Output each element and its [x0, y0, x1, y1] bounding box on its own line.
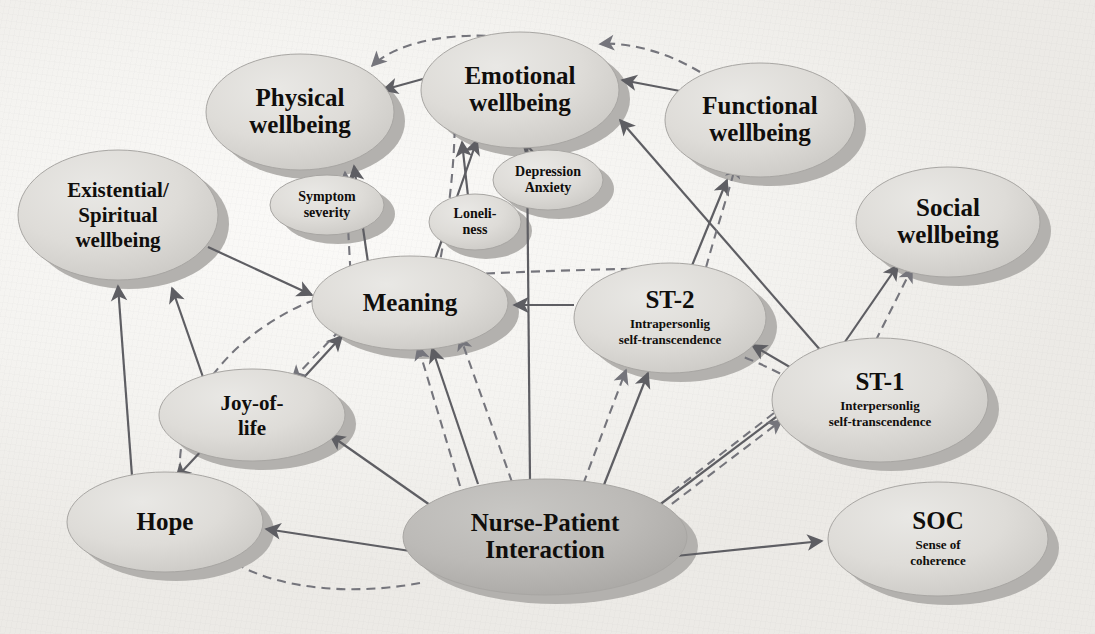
node-soc[interactable]: SOCSense ofcoherence	[828, 482, 1048, 596]
edge-nurse-meaning-dashed-2	[460, 336, 512, 482]
node-functional[interactable]: Functionalwellbeing	[665, 63, 855, 177]
node-label-nurse: Nurse-PatientInteraction	[471, 509, 620, 563]
node-label-meaning: Meaning	[363, 289, 458, 316]
node-label-physical: Physicalwellbeing	[249, 84, 351, 138]
node-sublabel-st1: Interpersonligself-transcendence	[829, 398, 932, 429]
node-label-st1: ST-1	[855, 368, 904, 395]
node-meaning[interactable]: Meaning	[312, 256, 508, 350]
node-emotional[interactable]: Emotionalwellbeing	[421, 32, 619, 148]
node-sublabel-st2: Intrapersonligself-transcendence	[619, 316, 722, 347]
node-social[interactable]: Socialwellbeing	[856, 167, 1040, 277]
edge-nurse-st2	[598, 373, 648, 500]
node-label-existential: Existential/Spiritualwellbeing	[67, 178, 170, 252]
node-label-soc: SOC	[912, 507, 963, 534]
edge-functional-emotional-dashed	[600, 44, 700, 72]
node-loneliness[interactable]: Loneli-ness	[429, 194, 521, 250]
node-sublabel-soc: Sense ofcoherence	[910, 537, 966, 568]
edge-nurse-joy	[330, 435, 430, 505]
edge-hope-existential	[118, 286, 132, 476]
edge-st2-functional-dashed	[702, 164, 736, 282]
node-label-depression: DepressionAnxiety	[515, 164, 581, 195]
node-physical[interactable]: Physicalwellbeing	[206, 54, 394, 170]
edge-meaning-joy-dashed	[292, 330, 340, 380]
node-st2[interactable]: ST-2Intrapersonligself-transcendence	[574, 263, 766, 373]
edge-functional-emotional	[622, 80, 680, 91]
node-nurse[interactable]: Nurse-PatientInteraction	[403, 479, 687, 595]
node-label-st2: ST-2	[645, 286, 694, 313]
diagram-canvas: PhysicalwellbeingEmotionalwellbeingFunct…	[0, 0, 1095, 634]
edge-nurse-hope	[266, 529, 410, 551]
edge-nurse-st1-dashed	[648, 420, 782, 522]
edge-nurse-st2-dashed	[578, 370, 626, 498]
node-symptom[interactable]: Symptomseverity	[270, 175, 384, 235]
node-label-functional: Functionalwellbeing	[702, 92, 817, 146]
node-layer: PhysicalwellbeingEmotionalwellbeingFunct…	[18, 32, 1048, 596]
edge-nurse-soc	[676, 541, 822, 556]
node-hope[interactable]: Hope	[67, 472, 263, 572]
node-depression[interactable]: DepressionAnxiety	[493, 150, 603, 210]
concept-model-svg: PhysicalwellbeingEmotionalwellbeingFunct…	[0, 0, 1095, 634]
node-existential[interactable]: Existential/Spiritualwellbeing	[18, 150, 218, 280]
node-label-symptom: Symptomseverity	[298, 189, 356, 220]
node-label-emotional: Emotionalwellbeing	[464, 62, 575, 116]
edge-joy-existential	[172, 288, 204, 380]
edge-existential-meaning	[208, 247, 312, 295]
node-joy[interactable]: Joy-of-life	[159, 369, 345, 461]
edge-nurse-st1	[658, 408, 788, 506]
node-st1[interactable]: ST-1Interpersonligself-transcendence	[772, 338, 988, 462]
node-label-hope: Hope	[137, 508, 194, 535]
